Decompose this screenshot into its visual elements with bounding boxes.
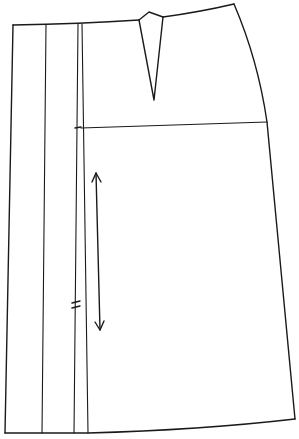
dart-top bbox=[139, 12, 163, 20]
pleat-line-2 bbox=[74, 24, 78, 433]
center-front-line bbox=[5, 25, 13, 433]
dart-legs bbox=[139, 17, 163, 100]
waist-line-right bbox=[163, 4, 234, 17]
pleat-line-1 bbox=[42, 25, 46, 433]
side-seam bbox=[234, 4, 295, 419]
hip-tick bbox=[75, 127, 81, 128]
hip-line bbox=[81, 122, 267, 128]
grainline-arrow-icon bbox=[92, 173, 104, 330]
hem-line bbox=[5, 419, 295, 433]
skirt-pattern-svg bbox=[0, 0, 299, 439]
waist-line-left bbox=[13, 20, 139, 25]
pattern-diagram bbox=[0, 0, 299, 439]
double-notch-icon bbox=[72, 301, 80, 308]
pleat-line-3 bbox=[82, 24, 88, 433]
